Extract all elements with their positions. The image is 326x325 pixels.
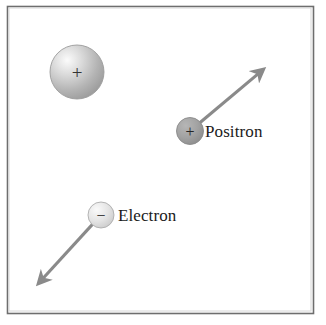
electron-particle: − Electron: [88, 202, 177, 228]
diagram-canvas: + + Positron − Electron: [0, 0, 326, 325]
figure-background: [0, 0, 326, 325]
plus-charge-icon: +: [185, 123, 194, 140]
positron-label: Positron: [205, 122, 263, 141]
particle-diagram-figure: + + Positron − Electron: [0, 0, 326, 325]
plus-charge-icon: +: [72, 62, 83, 83]
large-positive-sphere: +: [50, 45, 104, 99]
electron-label: Electron: [118, 206, 177, 225]
minus-charge-icon: −: [96, 207, 105, 224]
positron-particle: + Positron: [177, 118, 263, 145]
